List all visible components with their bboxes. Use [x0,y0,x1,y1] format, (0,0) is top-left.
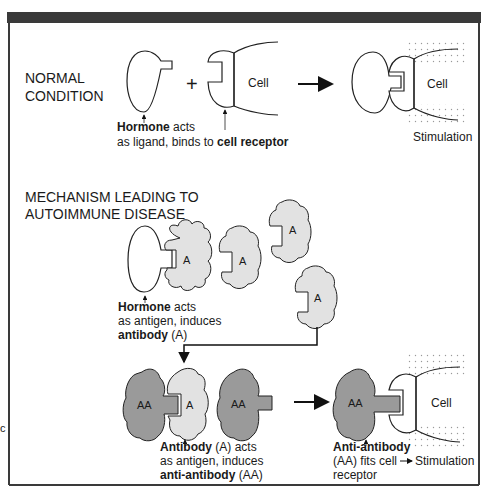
autoimmune-mechanism-diagram: c NORMAL CONDITION + Cell Hormone acts a… [0,0,489,495]
cell-with-receptor: Cell [208,42,278,130]
antibody-letter: A [289,224,297,236]
hormone-antigen-caption-1: Hormone acts [118,300,196,314]
plus-sign: + [186,73,198,95]
anti-antibody-bound-to-antibody: AA A [123,368,208,448]
stimulation-label-normal: Stimulation [413,130,472,144]
margin-marker: c [0,422,6,434]
free-antibody-2: A [269,200,311,263]
connector-arrow [184,327,317,362]
anti-antibody-caption-2: (AA) fits cell [333,454,397,468]
antibody-letter: A [186,399,194,411]
autoimmune-heading-line2: AUTOIMMUNE DISEASE [25,206,185,222]
anti-antibody-letters: AA [137,399,152,411]
antibody-letter: A [239,255,247,267]
cell-label-autoimmune: Cell [431,396,452,410]
cell-label: Cell [248,76,269,90]
autoimmune-section: MECHANISM LEADING TO AUTOIMMUNE DISEASE … [25,189,474,482]
stimulation-label-autoimmune: Stimulation [415,454,474,468]
normal-caption-line2: as ligand, binds to cell receptor [117,135,289,149]
antibody-caption-3: anti-antibody (AA) [160,468,263,482]
hormone-antigen-caption-3: antibody (A) [118,328,187,342]
anti-antibody-caption-1: Anti-antibody [333,440,411,454]
autoimmune-heading-line1: MECHANISM LEADING TO [25,189,199,205]
normal-heading-line1: NORMAL [25,70,85,86]
free-antibody-1: A [219,226,261,289]
stimulation-dots-top [405,352,467,377]
anti-antibody-caption-3: receptor [333,468,377,482]
hormone-shape [127,51,172,112]
hormone-antigen-caption-2: as antigen, induces [118,314,221,328]
antibody-letter: A [183,254,191,266]
frame-top-bar [7,12,481,23]
free-anti-antibody: AA [217,369,272,441]
normal-heading-line2: CONDITION [25,88,104,104]
anti-antibody-letters: AA [231,398,246,410]
normal-condition-section: NORMAL CONDITION + Cell Hormone acts as … [25,40,472,149]
antibody-caption-2: as antigen, induces [160,454,263,468]
free-antibody-3: A [295,266,337,329]
cell-receptor-shape [208,51,234,107]
cell-label-result: Cell [427,77,448,91]
antibody-caption-1: Antibody (A) acts [160,440,257,454]
anti-antibody-letters: AA [348,397,363,409]
normal-caption-line1: Hormone acts [117,120,195,134]
bound-complex-autoimmune: AA Cell [333,352,467,447]
bound-complex-normal: Cell Stimulation [352,40,472,144]
antibody-letter: A [314,292,322,304]
hormone-antigen-shape [128,226,172,292]
